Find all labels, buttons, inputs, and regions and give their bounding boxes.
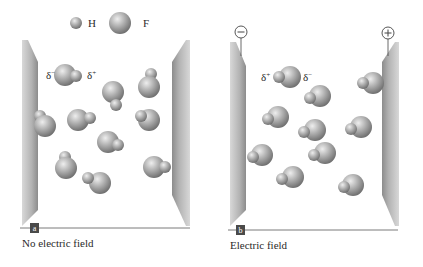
hf-molecule xyxy=(345,116,372,138)
hydrogen-atom xyxy=(247,151,259,163)
hf-molecule xyxy=(247,144,273,166)
fluorine-atom xyxy=(34,115,56,137)
panel-b-badge-letter: b xyxy=(239,226,243,235)
fluorine-atom xyxy=(55,157,77,179)
fluorine-atom xyxy=(102,81,124,103)
hydrogen-atom xyxy=(112,139,124,151)
right-plate xyxy=(172,40,190,226)
positive-plate xyxy=(382,42,399,226)
panel-b-footer: b Electric field xyxy=(228,225,398,251)
legend-f-label: F xyxy=(143,17,149,29)
hf-molecule xyxy=(135,109,160,131)
hf-molecule xyxy=(308,142,336,164)
hydrogen-atom xyxy=(304,92,316,104)
hf-molecule xyxy=(143,156,171,178)
hf-molecule xyxy=(304,85,331,107)
hydrogen-atom xyxy=(110,99,122,111)
hydrogen-atom xyxy=(273,71,285,83)
negative-plate xyxy=(230,42,246,226)
hf-molecule xyxy=(298,119,326,141)
hydrogen-atom xyxy=(82,172,94,184)
hf-molecule xyxy=(262,106,289,128)
hydrogen-atom xyxy=(70,70,82,82)
hf-molecule xyxy=(82,172,111,194)
hydrogen-atom xyxy=(159,161,171,173)
hydrogen-atom-icon xyxy=(70,17,82,29)
hydrogen-atom xyxy=(276,173,288,185)
hf-molecule xyxy=(338,174,364,196)
hf-molecule xyxy=(34,110,56,137)
hf-molecule xyxy=(67,109,96,131)
hf-molecule xyxy=(273,66,301,88)
panel-a-caption: No electric field xyxy=(22,237,94,249)
panel-a-delta-minus: δ− xyxy=(46,69,55,81)
hydrogen-atom xyxy=(357,77,369,89)
hydrogen-atom xyxy=(308,149,320,161)
left-plate xyxy=(22,40,38,226)
panel-b-caption: Electric field xyxy=(230,239,288,251)
legend: H F xyxy=(70,12,149,34)
panel-a-badge-letter: a xyxy=(33,224,37,233)
hydrogen-atom xyxy=(84,112,96,124)
fluorine-atom-icon xyxy=(109,12,131,34)
hf-molecule xyxy=(55,151,77,179)
hydrogen-atom xyxy=(345,123,357,135)
hf-molecule xyxy=(357,72,384,94)
hydrogen-atom xyxy=(262,113,274,125)
hydrogen-atom xyxy=(135,110,147,122)
panel-b-delta-minus: δ− xyxy=(303,71,312,83)
panel-b-delta-plus: δ+ xyxy=(261,71,270,83)
molecules xyxy=(34,64,384,196)
hf-molecule xyxy=(276,166,304,188)
hydrogen-atom xyxy=(338,181,350,193)
hf-molecule xyxy=(138,68,160,98)
legend-h-label: H xyxy=(88,17,96,29)
hf-molecule xyxy=(54,64,82,86)
panel-a-footer: a No electric field xyxy=(20,223,190,249)
hydrogen-atom xyxy=(298,126,310,138)
hf-polarization-diagram: H F δ− δ+ δ+ δ− a No electric field b El… xyxy=(0,0,423,267)
fluorine-atom xyxy=(138,76,160,98)
hf-molecule xyxy=(102,81,124,111)
panel-a-delta-plus: δ+ xyxy=(87,69,96,81)
hf-molecule xyxy=(97,131,124,153)
